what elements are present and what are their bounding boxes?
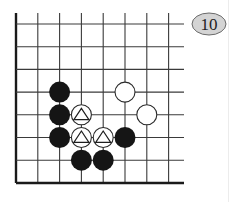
black-stone <box>49 82 70 103</box>
diagram-number: 10 <box>201 15 218 34</box>
black-stone <box>49 104 70 125</box>
black-stone <box>93 150 114 171</box>
white-stone-triangle <box>93 128 113 148</box>
black-stone <box>49 127 70 148</box>
white-stone-triangle <box>71 128 91 148</box>
white-stone-triangle <box>71 105 91 125</box>
go-board-diagram: 10 <box>0 0 230 202</box>
white-stone <box>115 82 135 102</box>
white-stone <box>137 105 157 125</box>
diagram-number-badge: 10 <box>192 13 226 35</box>
black-stone <box>115 127 136 148</box>
page-divider <box>228 0 229 202</box>
black-stone <box>71 150 92 171</box>
